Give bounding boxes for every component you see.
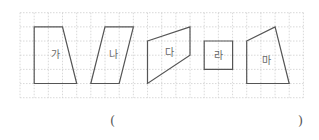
shape-1: 가 xyxy=(34,27,76,84)
shape-2: 나 xyxy=(91,27,134,84)
shape-label: 마 xyxy=(262,55,271,66)
shape-3: 다 xyxy=(148,27,191,84)
answer-paren-open: ( xyxy=(110,114,115,127)
shape-label: 라 xyxy=(214,50,223,61)
shape-label: 나 xyxy=(109,49,118,60)
shape-label: 다 xyxy=(165,47,174,58)
answer-paren-close: ) xyxy=(298,114,303,127)
shape-label: 가 xyxy=(51,49,60,60)
grid-figure: 가나다라마 xyxy=(0,0,319,140)
shape-5: 마 xyxy=(247,27,290,84)
